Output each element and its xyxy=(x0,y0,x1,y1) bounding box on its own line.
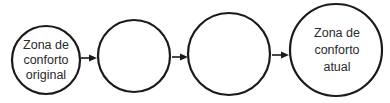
arrow-right-icon xyxy=(172,54,188,61)
circle-shape xyxy=(188,13,270,95)
node-intermediate-zone-1 xyxy=(98,20,170,92)
node-label-line: conforto xyxy=(23,53,68,67)
node-label-line: conforto xyxy=(314,43,359,57)
circle-shape xyxy=(98,20,170,92)
node-current-comfort-zone: Zona de conforto atual xyxy=(290,4,382,96)
node-intermediate-zone-2 xyxy=(188,13,270,95)
node-label-line: Zona de xyxy=(314,26,360,40)
node-label-line: original xyxy=(26,68,66,82)
comfort-zone-diagram: Zona de conforto original Zona de confor… xyxy=(0,0,390,103)
node-label-line: atual xyxy=(323,60,350,74)
node-label-line: Zona de xyxy=(23,38,69,52)
arrow-right-icon xyxy=(81,55,97,62)
node-original-comfort-zone: Zona de conforto original xyxy=(12,26,80,94)
arrow-right-icon xyxy=(272,52,289,59)
